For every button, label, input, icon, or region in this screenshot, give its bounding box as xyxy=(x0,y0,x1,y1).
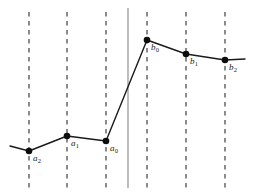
figure-canvas: a2a1a0b0b1b2 xyxy=(0,0,255,193)
data-point-b2 xyxy=(222,57,229,64)
point-label-a2: a2 xyxy=(33,154,41,163)
point-label-a1: a1 xyxy=(71,139,79,148)
line-plot xyxy=(0,0,255,193)
point-label-b1: b1 xyxy=(190,57,198,66)
data-point-a1 xyxy=(64,133,71,140)
data-point-a2 xyxy=(26,148,33,155)
data-point-b0 xyxy=(144,37,151,44)
point-label-b2: b2 xyxy=(229,63,237,72)
marker-group xyxy=(26,37,229,155)
dashed-gridlines-group xyxy=(29,12,225,188)
data-point-a0 xyxy=(103,138,110,145)
point-label-a0: a0 xyxy=(110,144,118,153)
point-label-b0: b0 xyxy=(151,43,159,52)
data-point-b1 xyxy=(183,51,190,58)
